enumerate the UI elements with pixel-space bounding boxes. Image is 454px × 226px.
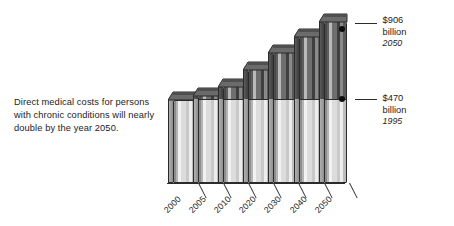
leader-line-1995 (355, 99, 377, 100)
callout-amount: $906 (383, 15, 407, 27)
marker-dot-1995 (339, 96, 345, 102)
callout-1995: $470billion1995 (383, 93, 407, 128)
bar-2050 (324, 21, 347, 183)
bar-top-cap (218, 78, 246, 87)
callout-2050: $906billion2050 (383, 15, 407, 50)
bar-upper-segment (249, 70, 270, 100)
plot-area: 2000200520102020203020402050 $906billion… (0, 0, 454, 226)
bar-top-cap (168, 91, 196, 100)
bar-top-cap (193, 87, 221, 96)
bar-top-cap (243, 61, 271, 70)
bar-upper-segment (224, 87, 245, 100)
bar-front-face (324, 21, 347, 183)
bar-top-cap (294, 28, 322, 37)
chart-figure: Direct medical costs for persons with ch… (0, 0, 454, 226)
bar-top-cap (319, 13, 347, 22)
callout-unit: billion (383, 105, 407, 117)
marker-dot-2050 (339, 26, 345, 32)
bar-upper-segment (325, 22, 346, 100)
bar-upper-segment (300, 37, 321, 100)
bar-top-cap (268, 44, 296, 53)
axis-baseline (167, 183, 345, 184)
bar-side-face-dark (319, 21, 324, 99)
callout-year: 2050 (383, 38, 407, 50)
bar-upper-segment (274, 53, 295, 99)
bar-side-face-dark (294, 36, 299, 99)
callout-unit: billion (383, 27, 407, 39)
leader-line-2050 (355, 23, 377, 24)
callout-year: 1995 (383, 116, 407, 128)
callout-amount: $470 (383, 93, 407, 105)
